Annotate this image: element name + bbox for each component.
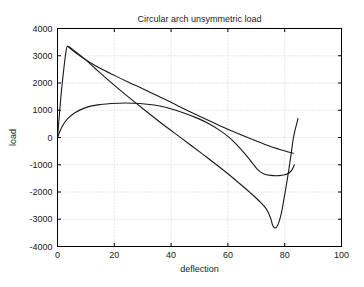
y-tick-label: 4000 (32, 24, 52, 34)
chart-title: Circular arch unsymmetric load (137, 14, 261, 24)
plot-canvas: 020406080100 -4000-3000-2000-10000100020… (0, 0, 364, 287)
data-curve (58, 46, 299, 228)
y-tick-label: -2000 (29, 187, 52, 197)
data-curves-group (58, 46, 299, 228)
x-tick-label: 80 (280, 250, 290, 260)
x-tick-labels: 020406080100 (55, 250, 349, 260)
x-axis-label: deflection (180, 264, 219, 274)
y-tick-label: 2000 (32, 78, 52, 88)
y-axis-label: load (8, 129, 18, 146)
chart-figure: 020406080100 -4000-3000-2000-10000100020… (0, 0, 364, 287)
y-tick-label: 0 (47, 133, 52, 143)
y-tick-label: -3000 (29, 214, 52, 224)
y-tick-label: -4000 (29, 242, 52, 252)
x-tick-label: 60 (223, 250, 233, 260)
x-tick-label: 20 (109, 250, 119, 260)
y-tick-label: 1000 (32, 105, 52, 115)
y-tick-labels: -4000-3000-2000-100001000200030004000 (29, 24, 52, 252)
y-tick-label: -1000 (29, 160, 52, 170)
x-tick-label: 0 (55, 250, 60, 260)
x-tick-label: 40 (166, 250, 176, 260)
x-tick-label: 100 (334, 250, 349, 260)
gridlines-group (58, 29, 342, 247)
y-tick-label: 3000 (32, 51, 52, 61)
